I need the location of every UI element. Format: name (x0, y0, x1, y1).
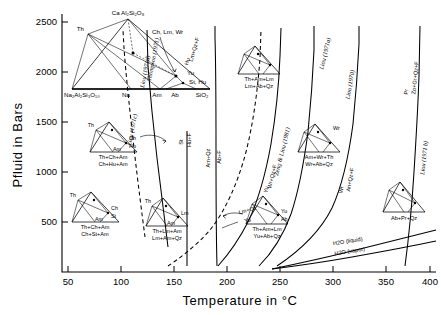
y-ticks (62, 22, 68, 222)
inset2-line1: Th+Ch+Am (81, 224, 110, 230)
y-tick-label: 2000 (36, 66, 57, 77)
annotation-liou-1971a: Liou (1971a) (317, 37, 332, 71)
main-triangle-vertex-th: Th (77, 25, 85, 32)
inset2-tip-am: Am (95, 216, 104, 222)
inset3-line2: Lm+Am+Qz (152, 235, 182, 241)
annotation-pr: Pr (403, 89, 410, 95)
inset-triangle-6: Wr Am+Wr+Th Wr+Ab+Qz (298, 124, 340, 167)
y-tick-label: 2500 (36, 16, 57, 27)
main-triangle-left-label: Na₂Al₂Si₃O₁₀ (64, 91, 100, 98)
inset5-line2: Yu+Ab+Qz (253, 233, 280, 239)
inset1-tip-th: Th (88, 122, 94, 128)
axis-frame (62, 14, 436, 272)
leader-lm-qz (222, 222, 238, 228)
axes: 2500 2000 1500 1000 500 50 100 150 200 2… (10, 14, 438, 308)
inset3-tip-th: Th (145, 198, 151, 204)
main-ternary-diagram: Ca Al₂Si₂O₈ Th Ch, Lm, Wr Yu St, Hu Na₂A… (64, 9, 210, 98)
x-tick-label: 200 (219, 276, 235, 287)
inset2-tip-ch: Ch (111, 205, 118, 211)
annotation-st: St (178, 139, 184, 145)
main-triangle-vertex-yu: Yu (187, 69, 195, 76)
inset1-line1: Th+Ch+Am (99, 154, 128, 160)
x-tick-label: 400 (422, 276, 438, 287)
annotation-lm-qz: Lm+Qz (238, 205, 257, 216)
main-triangle-base-ab: Ab (171, 91, 179, 98)
annotation-liou-1971b: Liou (1971 b) (418, 140, 430, 176)
arrowhead-inset5 (223, 215, 226, 218)
annotation-lm-qz-f: Lm+Qz+F (188, 36, 201, 62)
x-ticks (68, 266, 430, 272)
y-tick-label: 500 (41, 216, 57, 227)
main-triangle-vertex-sthu: St, Hu (189, 78, 207, 85)
inset6-line2: Wr+Ab+Qz (305, 161, 333, 167)
inset2-line2: Ch+St+Am (81, 231, 109, 237)
y-tick-label: 1000 (36, 166, 57, 177)
inset6-tip-wr: Wr (333, 125, 340, 131)
inset6-line1: Am+Wr+Th (305, 154, 334, 160)
x-tick-label: 250 (272, 276, 288, 287)
x-tick-label: 350 (378, 276, 394, 287)
inset-triangle-2: Th Ch St Am Th+Ch+Am Ch+St+Am (70, 192, 119, 237)
inset7-line1: Ab+Pr+Qz (391, 215, 417, 221)
annotation-am-qz: Am+Qz (205, 148, 211, 167)
figure-canvas: 2500 2000 1500 1000 500 50 100 150 200 2… (0, 0, 441, 315)
inset1-line2: Ch+Hu+Am (98, 161, 128, 167)
annotation-yu-2: Yu (262, 186, 269, 194)
y-axis-title: Pfluid in Bars (10, 103, 25, 188)
inset2-tip-st: St (111, 213, 117, 219)
x-tick-label: 150 (166, 276, 182, 287)
annotation-liou-1970: Liou (1970) (343, 69, 356, 100)
inset-triangle-5: Yu Ab Th+Am+Lm Yu+Ab+Qz (223, 196, 288, 239)
inset-triangle-7: Ab+Pr+Qz (383, 182, 425, 221)
annotation-liou-1971c: Liou (1971c) (125, 113, 139, 147)
inset4-line2: Lm+Ab+Qz (245, 83, 273, 89)
annotation-an-qz-f: An+Qz+F (345, 167, 355, 192)
curve-am-qz-ab-f (215, 26, 217, 266)
inset5-tip-ab: Ab (281, 216, 288, 222)
leader-inset1 (140, 135, 166, 141)
inset1-tip-am: Am (113, 146, 122, 152)
annotation-wr: Wr (337, 186, 344, 194)
x-tick-label: 100 (113, 276, 129, 287)
inset3-tip-lm: Lm (181, 210, 189, 216)
annotation-h2o-liquid: H2O (liquid) (332, 236, 363, 247)
inset5-tip-yu: Yu (281, 208, 287, 214)
y-tick-label: 1500 (36, 116, 57, 127)
annotation-hu-f: Hu+F (186, 133, 192, 147)
inset4-line1: Th+Am+Lm (244, 76, 274, 82)
phase-diagram-svg: 2500 2000 1500 1000 500 50 100 150 200 2… (0, 0, 441, 315)
x-tick-label: 50 (63, 276, 74, 287)
annotation-ab-f: Ab+F (216, 150, 222, 164)
annotation-h2o-vapor: H2O (vapor) (334, 246, 365, 257)
arrowhead-inset1 (163, 140, 166, 143)
main-triangle-apex-label: Ca Al₂Si₂O₈ (112, 9, 145, 16)
x-axis-title: Temperature in °C (182, 293, 297, 308)
main-triangle-right-label: SiO₂ (196, 91, 209, 98)
main-triangle-base-na: Na (122, 91, 130, 98)
inset2-tip-th: Th (70, 192, 76, 198)
main-triangle-base-am: Am (152, 91, 161, 98)
x-tick-label: 300 (325, 276, 341, 287)
main-triangle-vertex-chlmwr: Ch, Lm, Wr (152, 28, 183, 35)
leader-line-chlmwr (160, 37, 175, 72)
curve-h2o-second (272, 241, 436, 269)
inset5-line1: Th+Am+Lm (252, 226, 282, 232)
inset-triangle-3: Th Lm Am Th+Lm+Am Lm+Am+Qz (145, 198, 189, 241)
inset3-line1: Th+Lm+Am (152, 228, 182, 234)
inset3-tip-am: Am (167, 220, 176, 226)
